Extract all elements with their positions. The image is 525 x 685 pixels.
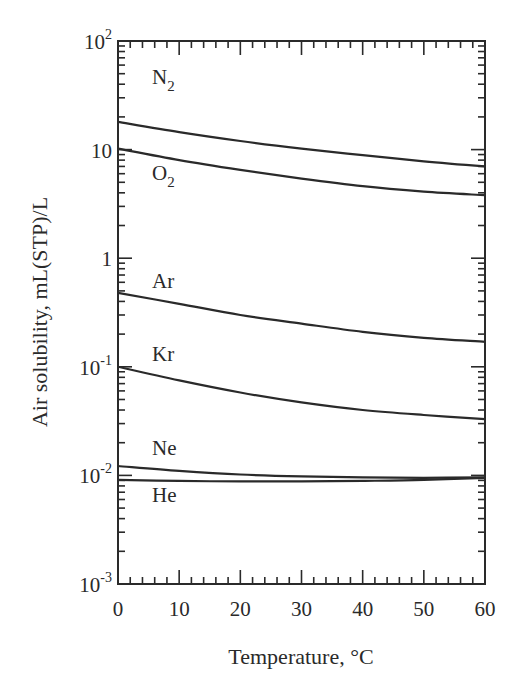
- y-tick-label: 10: [91, 139, 112, 163]
- series-label-o2: O2: [152, 161, 175, 190]
- series-label-n2: N2: [152, 65, 175, 94]
- series-label-ne: Ne: [152, 436, 177, 460]
- x-tick-label: 60: [475, 597, 496, 621]
- x-tick-label: 40: [352, 597, 373, 621]
- x-tick-label: 50: [413, 597, 434, 621]
- series-label-he: He: [152, 483, 177, 507]
- x-tick-labels: 0102030405060: [113, 597, 496, 621]
- y-tick-label: 102: [84, 27, 112, 54]
- x-tick-label: 20: [230, 597, 251, 621]
- series-line-kr: [118, 367, 485, 419]
- series-label-ar: Ar: [152, 269, 174, 293]
- x-tick-label: 30: [291, 597, 312, 621]
- x-tick-label: 10: [169, 597, 190, 621]
- y-tick-label: 10-2: [79, 461, 112, 488]
- series-line-ar: [118, 293, 485, 342]
- y-tick-label: 10-3: [79, 570, 112, 597]
- y-axis-title: Air solubility, mL(STP)/L: [27, 197, 52, 427]
- y-tick-label: 1: [102, 247, 113, 271]
- x-tick-label: 0: [113, 597, 124, 621]
- series-line-ne: [118, 466, 485, 478]
- solubility-chart: 10-310-210-1110102 0102030405060 N2O2ArK…: [0, 0, 525, 685]
- y-tick-label: 10-1: [79, 353, 112, 380]
- series-label-kr: Kr: [152, 342, 174, 366]
- y-tick-labels: 10-310-210-1110102: [79, 27, 112, 597]
- x-axis-title: Temperature, °C: [228, 644, 373, 669]
